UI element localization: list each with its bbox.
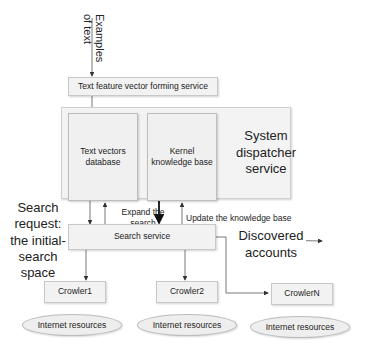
internet-resources-1: Internet resources	[22, 314, 122, 336]
search-request-line2: request:	[6, 216, 70, 232]
crawler-1-label: Crowler1	[58, 286, 92, 297]
text-vectors-db-line1: Text vectors	[80, 146, 125, 157]
search-request-line5: space	[6, 265, 70, 281]
discovered-line2: accounts	[236, 245, 306, 262]
internet-resources-2-label: Internet resources	[153, 320, 222, 330]
search-request-line4: search	[6, 249, 70, 265]
expand-search-line1: Expand the	[116, 207, 170, 218]
kernel-kb-line1: Kernel	[151, 146, 212, 157]
text-vectors-database: Text vectors database	[68, 113, 138, 201]
text-vectors-db-line2: database	[80, 157, 125, 168]
crawler-2: Crowler2	[156, 281, 218, 303]
examples-of-text-label: Examples of text	[82, 14, 106, 62]
crawler-1: Crowler1	[44, 281, 106, 303]
feature-service-label: Text feature vector forming service	[78, 81, 208, 92]
dispatcher-title-line1: System	[226, 128, 306, 145]
update-knowledge-base-label: Update the knowledge base	[186, 213, 306, 224]
crawler-n: CrowlerN	[271, 283, 333, 305]
kernel-kb-line2: knowledge base	[151, 157, 212, 168]
crawler-2-label: Crowler2	[170, 286, 204, 297]
system-architecture-diagram: Examples of text Text feature vector for…	[0, 0, 369, 352]
dispatcher-title-line2: dispatcher	[226, 145, 306, 162]
internet-resources-n-label: Internet resources	[266, 322, 335, 332]
discovered-accounts-label: Discovered accounts	[236, 228, 306, 261]
discovered-line1: Discovered	[236, 228, 306, 245]
crawler-n-label: CrowlerN	[284, 288, 319, 299]
dispatcher-title: System dispatcher service	[226, 128, 306, 178]
internet-resources-1-label: Internet resources	[38, 320, 107, 330]
examples-label-line1: Examples	[94, 14, 106, 62]
search-request-line1: Search	[6, 200, 70, 216]
update-kb-text: Update the knowledge base	[186, 213, 291, 223]
internet-resources-2: Internet resources	[137, 314, 237, 336]
dispatcher-title-line3: service	[226, 161, 306, 178]
search-request-label: Search request: the initial- search spac…	[6, 200, 70, 281]
search-service: Search service	[68, 224, 216, 250]
search-service-label: Search service	[114, 231, 170, 242]
examples-label-line2: of text	[82, 14, 94, 44]
text-feature-vector-service: Text feature vector forming service	[68, 77, 218, 96]
kernel-knowledge-base: Kernel knowledge base	[147, 113, 217, 201]
internet-resources-n: Internet resources	[250, 316, 350, 338]
search-request-line3: the initial-	[6, 233, 70, 249]
